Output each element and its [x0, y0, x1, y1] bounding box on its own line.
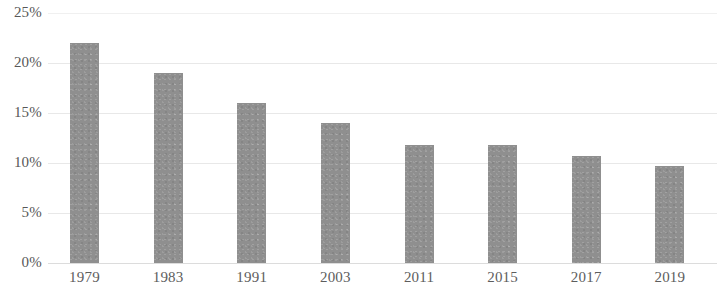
y-tick-label-10: 10%	[14, 155, 42, 170]
x-tick-label-2019: 2019	[635, 268, 705, 286]
bar-2011	[405, 145, 434, 263]
bar-2003	[321, 123, 350, 263]
x-tick-label-2015: 2015	[468, 268, 538, 286]
y-tick-label-20: 20%	[14, 55, 42, 70]
x-tick-label-2003: 2003	[300, 268, 370, 286]
bar-chart: 25% 20% 15% 10% 5% 0% 197919831991200320…	[0, 0, 727, 293]
y-tick-label-5: 5%	[22, 205, 42, 220]
x-axis: 19791983199120032011201520172019	[48, 266, 717, 293]
bar-2017	[572, 156, 601, 263]
gridline-0	[48, 263, 717, 264]
bar-1979	[70, 43, 99, 263]
bar-2019	[655, 166, 684, 263]
bar-1983	[154, 73, 183, 263]
x-tick-label-1979: 1979	[50, 268, 120, 286]
x-tick-label-1991: 1991	[217, 268, 287, 286]
x-tick-label-2017: 2017	[551, 268, 621, 286]
bar-2015	[488, 145, 517, 263]
y-axis: 25% 20% 15% 10% 5% 0%	[0, 0, 46, 293]
y-tick-label-0: 0%	[22, 255, 42, 270]
bars	[48, 13, 717, 263]
bar-1991	[237, 103, 266, 263]
y-tick-label-15: 15%	[14, 105, 42, 120]
x-tick-label-2011: 2011	[384, 268, 454, 286]
plot-area	[48, 13, 717, 263]
x-tick-label-1983: 1983	[133, 268, 203, 286]
y-tick-label-25: 25%	[14, 5, 42, 20]
